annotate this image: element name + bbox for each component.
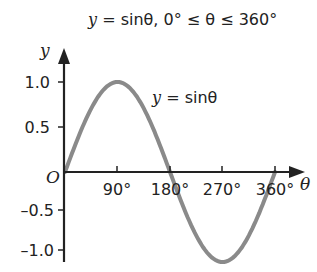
chart-canvas: 1.0 0.5 –0.5 –1.0 O 90° 180° 270° 360° y… — [0, 0, 317, 272]
y-axis-arrow-icon — [58, 48, 70, 64]
origin-label: O — [46, 167, 60, 187]
y-tick-label-1: 1.0 — [25, 73, 50, 92]
y-tick-label-neg1: –1.0 — [21, 241, 54, 260]
y-axis-label: y — [39, 40, 50, 60]
y-tick-label-0.5: 0.5 — [25, 118, 50, 137]
x-tick-label-90: 90° — [103, 180, 131, 199]
x-tick-label-180: 180° — [151, 180, 190, 199]
y-tick-label-neg0.5: –0.5 — [21, 201, 54, 220]
x-tick-label-270: 270° — [203, 180, 242, 199]
x-tick-label-360: 360° — [256, 180, 295, 199]
x-axis-label: θ — [300, 174, 310, 194]
